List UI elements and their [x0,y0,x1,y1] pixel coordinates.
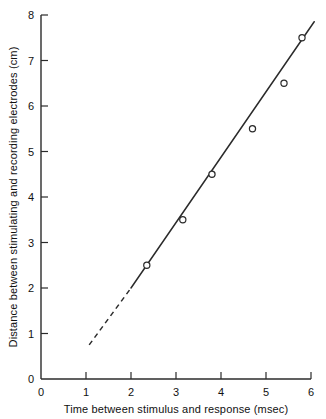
y-tick-label: 2 [28,282,34,294]
data-point-outlier [299,35,305,41]
y-axis-tick-labels: 8 7 6 5 4 3 2 1 0 [28,9,34,385]
x-axis-tick-labels: 0 1 2 3 4 5 6 [38,386,314,398]
y-tick-label: 7 [28,55,34,67]
x-tick-label: 0 [38,386,44,398]
x-axis-title: Time between stimulus and response (msec… [64,403,289,415]
x-axis-ticks [86,372,311,379]
y-tick-label: 1 [28,328,34,340]
data-point [209,171,215,177]
regression-line [131,22,314,288]
data-point [281,80,287,86]
y-tick-label: 8 [28,9,34,21]
data-point [249,126,255,132]
data-point [180,217,186,223]
extrapolation-dashed-line [89,288,131,345]
chart-figure: 8 7 6 5 4 3 2 1 0 0 1 2 3 4 5 6 Time bet… [0,0,326,419]
y-tick-label: 5 [28,146,34,158]
y-tick-label: 0 [28,373,34,385]
data-point [144,262,150,268]
y-tick-label: 4 [28,191,34,203]
scatter-plot-svg: 8 7 6 5 4 3 2 1 0 0 1 2 3 4 5 6 Time bet… [0,0,326,419]
y-axis-title: Distance between stimulating and recordi… [7,47,19,348]
x-tick-label: 2 [128,386,134,398]
y-axis-ticks [41,15,48,334]
y-tick-label: 6 [28,100,34,112]
y-tick-label: 3 [28,237,34,249]
x-tick-label: 6 [308,386,314,398]
x-tick-label: 1 [83,386,89,398]
x-tick-label: 4 [218,386,224,398]
x-tick-label: 5 [263,386,269,398]
x-tick-label: 3 [173,386,179,398]
